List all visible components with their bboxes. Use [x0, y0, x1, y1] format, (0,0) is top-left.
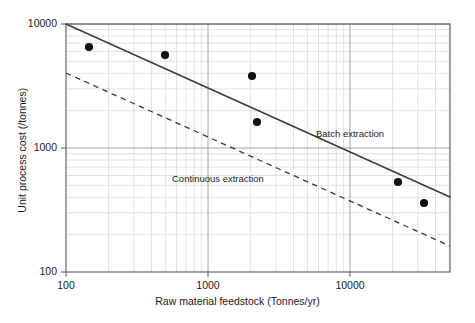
y-axis-title: Unit process cost (/tonnes): [17, 50, 28, 250]
data-point: [85, 43, 93, 51]
data-point: [248, 72, 256, 80]
chart-plot-area: [0, 0, 475, 323]
x-tick-label-100: 100: [36, 280, 96, 291]
y-tick-label-10000: 10000: [0, 18, 57, 29]
annotation-batch-extraction: Batch extraction: [316, 129, 384, 139]
x-tick-label-10000: 10000: [320, 280, 380, 291]
y-tick-label-100: 100: [0, 266, 57, 277]
chart-background: [0, 0, 475, 323]
data-point: [420, 199, 428, 207]
y-tick-label-1000: 1000: [0, 142, 57, 153]
data-point: [394, 178, 402, 186]
annotation-continuous-extraction: Continuous extraction: [172, 174, 264, 184]
data-point: [161, 51, 169, 59]
chart-container: 10000 1000 100 100 1000 10000 Raw materi…: [0, 0, 475, 323]
x-axis-title: Raw material feedstock (Tonnes/yr): [0, 296, 475, 307]
data-point: [253, 118, 261, 126]
x-tick-label-1000: 1000: [178, 280, 238, 291]
